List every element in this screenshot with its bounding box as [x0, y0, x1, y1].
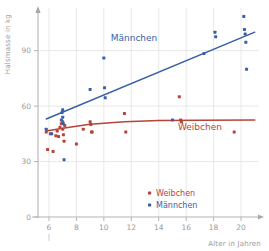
data-point	[61, 111, 64, 114]
data-point	[89, 123, 92, 126]
data-point	[214, 35, 217, 38]
data-point	[45, 130, 48, 133]
y-tick-label: 60	[21, 102, 31, 111]
x-tick-label: 12	[127, 223, 137, 232]
x-tick-label: 14	[154, 223, 164, 232]
data-point	[124, 130, 127, 133]
scatter-chart: 030609068101214161820Alter in JahrenHals…	[0, 0, 269, 251]
data-point	[54, 134, 57, 137]
data-point	[102, 57, 105, 60]
data-point	[242, 15, 245, 18]
data-point	[89, 120, 92, 123]
legend-marker	[148, 191, 151, 194]
data-point	[82, 128, 85, 131]
y-tick-label: 90	[21, 46, 31, 55]
data-point	[46, 148, 49, 151]
data-point	[61, 128, 64, 131]
data-point	[63, 158, 66, 161]
x-tick-label: 18	[209, 223, 219, 232]
data-point	[243, 28, 246, 31]
data-point	[50, 132, 53, 135]
x-axis-title: Alter in Jahren	[208, 240, 261, 248]
data-point	[58, 126, 61, 129]
data-point	[57, 135, 60, 138]
data-point	[52, 150, 55, 153]
data-point	[75, 143, 78, 146]
data-point	[61, 116, 64, 119]
y-tick-label: 0	[26, 213, 31, 222]
data-point	[123, 112, 126, 115]
x-tick-label: 16	[181, 223, 191, 232]
data-point	[178, 95, 181, 98]
data-point	[104, 96, 107, 99]
data-point	[103, 86, 106, 89]
chart-legend: WeibchenMännchen	[148, 189, 197, 210]
x-axis-arrow	[258, 214, 264, 219]
data-point	[60, 118, 63, 121]
y-tick-label: 30	[21, 157, 31, 166]
x-tick-label: 6	[47, 223, 52, 232]
x-tick-label: 8	[74, 223, 79, 232]
series-annotation-männchen: Männchen	[111, 33, 158, 43]
data-point	[245, 68, 248, 71]
data-point	[171, 118, 174, 121]
data-point	[62, 122, 65, 125]
data-point	[63, 140, 66, 143]
data-point	[89, 88, 92, 91]
series-annotation-weibchen: Weibchen	[178, 122, 222, 132]
data-point	[203, 52, 206, 55]
data-point	[213, 31, 216, 34]
data-point	[244, 33, 247, 36]
trend-line-weibchen	[46, 120, 255, 131]
x-tick-label: 20	[236, 223, 246, 232]
legend-label: Weibchen	[156, 189, 195, 198]
chart-canvas: 030609068101214161820Alter in JahrenHals…	[0, 0, 269, 251]
data-point	[61, 108, 64, 111]
legend-label: Männchen	[156, 201, 197, 210]
y-axis-title: Halsmasse in kg	[4, 14, 12, 74]
legend-marker	[148, 203, 151, 206]
y-axis-arrow	[35, 6, 40, 13]
data-point	[56, 130, 59, 133]
x-tick-label: 10	[99, 223, 109, 232]
data-point	[45, 128, 48, 131]
data-point	[233, 130, 236, 133]
data-point	[91, 130, 94, 133]
data-point	[62, 133, 65, 136]
data-point	[244, 41, 247, 44]
